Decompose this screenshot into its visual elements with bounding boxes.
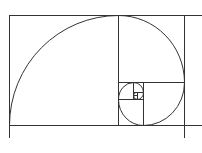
golden-spiral-diagram <box>0 0 202 153</box>
grid-lines <box>9 15 202 138</box>
spiral-curve <box>10 16 185 126</box>
